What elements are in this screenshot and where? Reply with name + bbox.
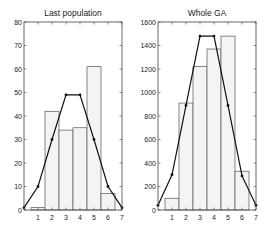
bar — [179, 103, 193, 210]
bar-series — [165, 36, 249, 210]
y-tick-label: 1600 — [140, 19, 156, 26]
line-marker — [199, 35, 202, 38]
y-tick-label: 70 — [14, 42, 22, 49]
panel-whole-ga: Whole GA 0200400600800100012001400160012… — [140, 8, 258, 221]
x-tick-label: 5 — [226, 214, 230, 221]
line-marker — [227, 104, 230, 107]
bar — [193, 67, 207, 210]
line-marker — [51, 138, 54, 141]
y-tick-label: 20 — [14, 160, 22, 167]
chart-title: Whole GA — [188, 8, 227, 18]
y-tick-label: 60 — [14, 66, 22, 73]
y-tick-label: 40 — [14, 113, 22, 120]
y-tick-label: 80 — [14, 19, 22, 26]
x-tick-label: 5 — [92, 214, 96, 221]
line-marker — [213, 35, 216, 38]
bar — [59, 130, 73, 210]
bar — [221, 36, 235, 210]
y-tick-label: 1200 — [140, 66, 156, 73]
panel-last-population: Last population 010203040506070801234567 — [14, 8, 124, 221]
bar — [207, 49, 221, 210]
y-tick-label: 600 — [144, 136, 156, 143]
x-tick-label: 3 — [64, 214, 68, 221]
chart-canvas: Last population 010203040506070801234567… — [0, 0, 269, 232]
y-tick-label: 200 — [144, 183, 156, 190]
x-tick-label: 7 — [254, 214, 258, 221]
line-marker — [107, 185, 110, 188]
y-tick-label: 30 — [14, 136, 22, 143]
line-marker — [185, 104, 188, 107]
y-tick-label: 1000 — [140, 89, 156, 96]
bar — [73, 128, 87, 210]
y-tick-label: 1400 — [140, 42, 156, 49]
line-marker — [241, 175, 244, 178]
y-tick-label: 10 — [14, 183, 22, 190]
line-marker — [93, 138, 96, 141]
x-tick-label: 2 — [50, 214, 54, 221]
y-tick-label: 50 — [14, 89, 22, 96]
x-tick-label: 6 — [106, 214, 110, 221]
y-tick-label: 0 — [18, 207, 22, 214]
x-tick-label: 4 — [212, 214, 216, 221]
x-tick-label: 1 — [36, 214, 40, 221]
bar-series — [31, 67, 115, 210]
x-tick-label: 7 — [120, 214, 124, 221]
line-marker — [37, 185, 40, 188]
y-tick-label: 800 — [144, 113, 156, 120]
line-marker — [65, 93, 68, 96]
figure: Last population 010203040506070801234567… — [0, 0, 269, 232]
x-tick-label: 4 — [78, 214, 82, 221]
y-tick-label: 0 — [152, 207, 156, 214]
x-tick-label: 6 — [240, 214, 244, 221]
line-marker — [171, 173, 174, 176]
x-tick-label: 3 — [198, 214, 202, 221]
line-marker — [79, 93, 82, 96]
y-tick-label: 400 — [144, 160, 156, 167]
x-tick-label: 2 — [184, 214, 188, 221]
chart-title: Last population — [44, 8, 102, 18]
x-tick-label: 1 — [170, 214, 174, 221]
bar — [45, 111, 59, 210]
